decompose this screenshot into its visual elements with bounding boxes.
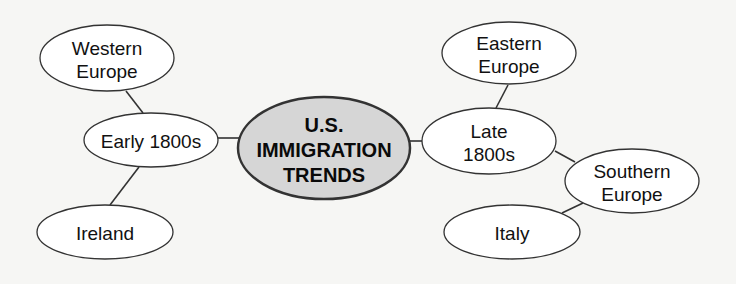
late-1800s-label-line-0: Late: [471, 121, 508, 142]
ireland-label-line-0: Ireland: [76, 223, 134, 244]
southern-europe-label-line-0: Southern: [593, 161, 670, 182]
node-late-1800s: Late1800s: [422, 108, 556, 174]
eastern-europe-label-line-0: Eastern: [476, 33, 541, 54]
central-topic: U.S.IMMIGRATIONTRENDS: [238, 97, 410, 199]
edge-western-europe-to-early-1800s: [126, 91, 143, 113]
center-label-line-0: U.S.: [305, 114, 344, 136]
eastern-europe-label-line-1: Europe: [478, 56, 539, 77]
node-italy: Italy: [444, 205, 580, 259]
node-center: U.S.IMMIGRATIONTRENDS: [238, 97, 410, 199]
western-europe-label-line-0: Western: [72, 38, 142, 59]
node-ireland: Ireland: [37, 205, 173, 259]
southern-europe-label-line-1: Europe: [601, 184, 662, 205]
node-western-europe: WesternEurope: [40, 25, 174, 91]
center-label-line-2: TRENDS: [283, 164, 365, 186]
immigration-concept-web: WesternEuropeEarly 1800sIrelandEasternEu…: [0, 0, 736, 284]
edge-late-1800s-to-southern-europe: [555, 151, 575, 162]
node-southern-europe: SouthernEurope: [565, 149, 699, 213]
center-label-line-1: IMMIGRATION: [256, 139, 391, 161]
edge-southern-europe-to-italy: [562, 203, 583, 213]
node-early-1800s: Early 1800s: [84, 113, 218, 167]
early-1800s-label-line-0: Early 1800s: [101, 131, 201, 152]
node-eastern-europe: EasternEurope: [442, 22, 576, 84]
edge-eastern-europe-to-late-1800s: [496, 85, 508, 108]
italy-label-line-0: Italy: [495, 223, 530, 244]
late-1800s-label-line-1: 1800s: [463, 144, 515, 165]
western-europe-label-line-1: Europe: [76, 61, 137, 82]
edge-early-1800s-to-ireland: [110, 167, 139, 205]
